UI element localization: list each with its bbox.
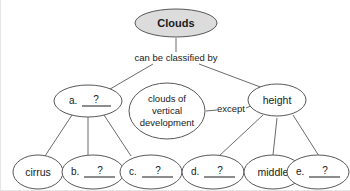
node-cirrus-label: cirrus (25, 166, 51, 178)
edge-middle-to-except (206, 110, 217, 111)
node-leaf-c-blank: ? (155, 165, 161, 176)
edge-label-classified-by: can be classified by (135, 52, 218, 63)
node-height-label: height (263, 94, 292, 106)
edge-label-except: except (217, 103, 245, 114)
node-leaf-d-letter: d. (191, 166, 199, 177)
node-leaf-b-blank: ? (97, 165, 103, 176)
edge-branch-left-to-leaf-3 (102, 112, 131, 156)
node-leaf-e-blank: ? (322, 165, 328, 176)
node-leaf-b-letter: b. (71, 166, 79, 177)
node-vertical-development-line1: clouds of (148, 93, 186, 104)
node-leaf-e-letter: e. (296, 166, 304, 177)
node-middle-label: middle (258, 166, 289, 178)
node-vertical-development-line3: development (140, 117, 195, 128)
edge-classifier-to-branch-right (199, 64, 263, 88)
node-branch-a-blank: ? (93, 94, 99, 105)
node-vertical-development-line2: vertical (152, 105, 182, 116)
edge-height-to-leaf-4 (219, 115, 263, 156)
node-branch-a-letter: a. (69, 95, 77, 106)
node-leaf-c-letter: c. (129, 166, 137, 177)
node-clouds-label: Clouds (157, 17, 194, 29)
diagram-canvas: Clouds can be classified by a. ? clouds … (1, 0, 350, 191)
edge-height-to-leaf-6 (293, 115, 319, 156)
node-leaf-d-blank: ? (217, 165, 223, 176)
edge-height-to-leaf-5 (273, 118, 277, 155)
concept-map-diagram: Clouds can be classified by a. ? clouds … (0, 0, 350, 191)
edge-branch-left-to-leaf-1 (45, 112, 74, 156)
node-branch-a[interactable] (54, 85, 122, 117)
